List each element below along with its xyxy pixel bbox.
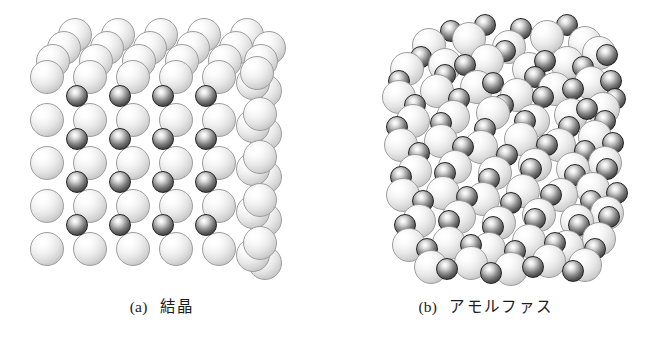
caption-amorphous-term: アモルファス (449, 298, 553, 315)
caption-crystal-tag: (a) (130, 298, 148, 315)
lattice-sphere-light-front (243, 97, 277, 131)
caption-crystal: (a)結晶 (0, 297, 324, 316)
panel-crystal: (a)結晶 (0, 0, 324, 350)
lattice-sphere-dark (152, 214, 174, 236)
lattice-sphere-light-front (30, 146, 64, 180)
lattice-sphere-dark (109, 214, 131, 236)
lattice-sphere-light-front (243, 140, 277, 174)
lattice-sphere-dark (195, 128, 217, 150)
lattice-sphere-light-front (30, 189, 64, 223)
lattice-sphere-light-front (116, 232, 150, 266)
lattice-sphere-dark (109, 128, 131, 150)
lattice-sphere-light-front (202, 232, 236, 266)
lattice-sphere-light-front (159, 232, 193, 266)
crystal-lattice-illustration (0, 0, 324, 285)
lattice-sphere-dark (152, 171, 174, 193)
lattice-sphere-dark (152, 85, 174, 107)
lattice-sphere-dark (66, 171, 88, 193)
lattice-sphere-light-front (243, 226, 277, 260)
panel-amorphous: (b)アモルファス (324, 0, 648, 350)
cluster-sphere-dark (596, 44, 618, 66)
cluster-sphere-dark (562, 78, 584, 100)
lattice-sphere-dark (66, 214, 88, 236)
lattice-sphere-dark (152, 128, 174, 150)
cluster-sphere-dark (522, 256, 544, 278)
lattice-sphere-light-front (243, 183, 277, 217)
lattice-sphere-light-front (240, 56, 274, 90)
lattice-sphere-light-front (73, 232, 107, 266)
cluster-sphere-dark (480, 262, 502, 284)
caption-amorphous-tag: (b) (418, 298, 437, 315)
cluster-sphere-dark (562, 260, 584, 282)
figure-root: (a)結晶 (b)アモルファス (0, 0, 648, 350)
lattice-sphere-dark (195, 171, 217, 193)
cluster-sphere-dark (436, 258, 458, 280)
lattice-sphere-dark (195, 85, 217, 107)
caption-crystal-term: 結晶 (160, 298, 195, 315)
lattice-sphere-dark (109, 171, 131, 193)
lattice-sphere-light-front (30, 232, 64, 266)
amorphous-cluster-illustration (324, 0, 648, 285)
lattice-sphere-dark (109, 85, 131, 107)
lattice-sphere-dark (66, 128, 88, 150)
lattice-sphere-light-front (30, 103, 64, 137)
lattice-sphere-dark (66, 85, 88, 107)
caption-amorphous: (b)アモルファス (324, 297, 648, 316)
lattice-sphere-dark (195, 214, 217, 236)
lattice-sphere-light-front (30, 60, 64, 94)
